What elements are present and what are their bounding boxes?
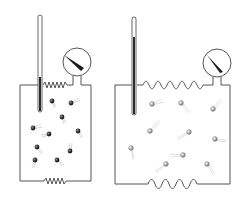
molecule-icon xyxy=(35,145,43,154)
molecule-icon xyxy=(213,137,227,142)
molecule-icon xyxy=(148,121,160,133)
top-spring-icon xyxy=(137,81,213,89)
top-spring-icon xyxy=(43,82,73,88)
left-thermometer-icon xyxy=(38,15,42,112)
molecule-icon xyxy=(69,98,80,105)
left-container xyxy=(20,76,91,184)
molecule-icon xyxy=(60,115,66,124)
molecule-icon xyxy=(32,158,37,168)
molecule-icon xyxy=(177,130,191,140)
right-pressure-gauge-icon xyxy=(203,49,231,77)
bottom-spring-icon xyxy=(44,178,66,184)
molecule-icon xyxy=(129,146,134,160)
molecule-icon xyxy=(76,129,83,138)
right-thermometer-icon xyxy=(132,17,136,115)
molecule-icon xyxy=(50,99,56,108)
molecule-icon xyxy=(205,162,215,175)
molecule-icon xyxy=(155,162,168,173)
molecule-icon xyxy=(150,99,164,106)
molecule-icon xyxy=(55,158,64,166)
right-molecules xyxy=(129,99,227,175)
bottom-spring-icon xyxy=(148,180,200,189)
gas-diagram xyxy=(0,0,246,197)
molecule-icon xyxy=(179,101,190,113)
molecule-icon xyxy=(170,153,185,158)
left-pressure-gauge-icon xyxy=(63,48,91,76)
molecule-icon xyxy=(41,132,51,137)
molecule-icon xyxy=(68,143,73,153)
molecule-icon xyxy=(211,99,222,111)
molecule-icon xyxy=(31,124,42,130)
